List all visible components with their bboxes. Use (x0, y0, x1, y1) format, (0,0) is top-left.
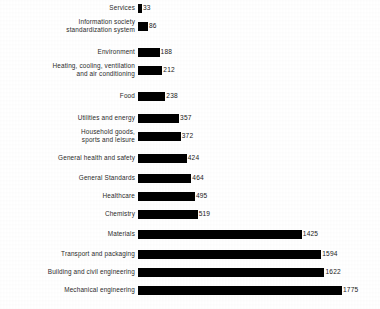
bar-track: 1775 (138, 280, 380, 300)
bar-track: 357 (138, 108, 380, 128)
bar-category-label: Building and civil engineering (0, 268, 138, 276)
bar-fill (138, 132, 181, 141)
bar-category-label: Heating, cooling, ventilation and air co… (0, 62, 138, 77)
bar-track: 495 (138, 186, 380, 206)
bar-category-label: Food (0, 92, 138, 100)
bar-category-label: Healthcare (0, 192, 138, 200)
bar-value-label: 464 (191, 174, 204, 182)
bar-track: 372 (138, 126, 380, 146)
bar-value-label: 212 (162, 66, 175, 74)
bar-row: General health and safety424 (0, 148, 380, 168)
bar-category-label: General Standards (0, 174, 138, 182)
bar-value-label: 357 (179, 114, 192, 122)
bar-value-label: 86 (148, 22, 157, 30)
bar-value-label: 1425 (302, 230, 318, 238)
bar-track: 1622 (138, 262, 380, 282)
bar-fill (138, 114, 179, 123)
bar-category-label: Household goods, sports and leisure (0, 128, 138, 143)
bar-row: Transport and packaging1594 (0, 244, 380, 264)
bar-track: 424 (138, 148, 380, 168)
bar-category-label: Materials (0, 230, 138, 238)
bar-track: 1594 (138, 244, 380, 264)
bar-fill (138, 92, 165, 101)
bar-value-label: 519 (198, 210, 211, 218)
bar-track: 188 (138, 42, 380, 62)
chart-plot-area: Services33Information society standardiz… (0, 0, 380, 309)
bar-fill (138, 192, 195, 201)
bar-row: Food238 (0, 86, 380, 106)
bar-row: Heating, cooling, ventilation and air co… (0, 60, 380, 80)
bar-track: 519 (138, 204, 380, 224)
bar-fill (138, 154, 187, 163)
bar-track: 464 (138, 168, 380, 188)
bar-fill (138, 66, 162, 75)
bar-fill (138, 250, 321, 259)
bar-fill (138, 174, 191, 183)
bar-fill (138, 210, 198, 219)
bar-fill (138, 22, 148, 31)
bar-category-label: Utilities and energy (0, 114, 138, 122)
bar-row: Utilities and energy357 (0, 108, 380, 128)
bar-fill (138, 230, 302, 239)
bar-value-label: 1775 (342, 286, 358, 294)
bar-fill (138, 48, 160, 57)
bar-fill (138, 268, 324, 277)
bar-row: Materials1425 (0, 224, 380, 244)
bar-category-label: Services (0, 4, 138, 12)
bar-value-label: 1594 (321, 250, 337, 258)
bar-category-label: Chemistry (0, 210, 138, 218)
bar-row: Mechanical engineering1775 (0, 280, 380, 300)
bar-value-label: 495 (195, 192, 208, 200)
bar-row: Building and civil engineering1622 (0, 262, 380, 282)
bar-category-label: Environment (0, 48, 138, 56)
bar-chart: Services33Information society standardiz… (0, 0, 380, 309)
bar-row: Information society standardization syst… (0, 16, 380, 36)
bar-track: 212 (138, 60, 380, 80)
bar-track: 238 (138, 86, 380, 106)
bar-value-label: 424 (187, 154, 200, 162)
bar-category-label: Transport and packaging (0, 250, 138, 258)
bar-track: 86 (138, 16, 380, 36)
bar-value-label: 372 (181, 132, 194, 140)
bar-row: General Standards464 (0, 168, 380, 188)
bar-row: Environment188 (0, 42, 380, 62)
bar-category-label: Information society standardization syst… (0, 18, 138, 33)
bar-track: 1425 (138, 224, 380, 244)
bar-value-label: 33 (142, 4, 151, 12)
bar-category-label: General health and safety (0, 154, 138, 162)
bar-row: Healthcare495 (0, 186, 380, 206)
bar-row: Chemistry519 (0, 204, 380, 224)
bar-fill (138, 286, 342, 295)
bar-value-label: 1622 (324, 268, 340, 276)
bar-category-label: Mechanical engineering (0, 286, 138, 294)
bar-row: Household goods, sports and leisure372 (0, 126, 380, 146)
bar-value-label: 238 (165, 92, 178, 100)
bar-value-label: 188 (160, 48, 173, 56)
